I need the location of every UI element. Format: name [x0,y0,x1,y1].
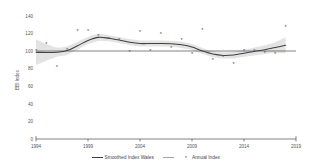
y-tick-label: 60 [28,84,34,89]
y-tick-label: 0 [30,137,33,142]
x-axis-tick-marks [88,139,244,141]
data-point-marker: * [212,57,215,63]
x-axis-tick-labels: 199419992004200920142019 [31,144,302,149]
legend-label-annual: Annual Index [192,155,221,160]
bbi-index-chart: 020406080100120140 199419992004200920142… [0,0,318,168]
data-point-marker: * [87,28,90,34]
y-tick-label: 100 [25,49,33,54]
x-tick-label: 2004 [135,144,146,149]
data-point-marker: * [139,29,142,35]
y-tick-label: 80 [28,66,34,71]
y-tick-label: 120 [25,31,33,36]
y-axis-tick-labels: 020406080100120140 [25,14,33,142]
y-tick-label: 20 [28,119,34,124]
data-point-marker: * [201,27,204,33]
data-point-marker: * [233,61,236,67]
y-axis-title: BBI Index [15,69,20,90]
chart-legend: Smoothed Index Wales * Annual Index [92,155,221,160]
x-tick-label: 2009 [187,144,198,149]
legend-asterisk-swatch-annual: * [185,156,187,161]
data-point-marker: * [191,51,194,57]
chart-container: 020406080100120140 199419992004200920142… [0,0,318,168]
x-tick-label: 1999 [83,144,94,149]
legend-label-smoothed: Smoothed Index Wales [105,155,155,160]
data-point-marker: * [129,49,132,55]
x-tick-label: 1994 [31,144,42,149]
y-tick-label: 40 [28,102,34,107]
data-point-marker: * [285,24,288,30]
x-tick-label: 2014 [239,144,250,149]
data-point-marker: * [56,64,59,70]
data-point-marker: * [160,31,163,37]
data-point-marker: * [77,28,80,34]
y-tick-label: 140 [25,14,33,19]
confidence-band [36,34,286,65]
x-tick-label: 2019 [291,144,302,149]
